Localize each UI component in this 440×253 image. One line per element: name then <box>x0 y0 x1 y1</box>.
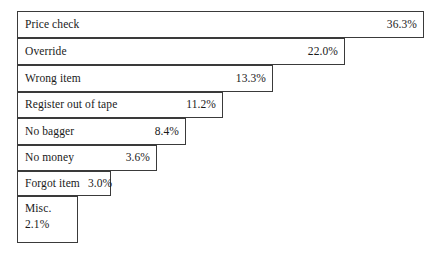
bar-row: Misc. 2.1% <box>17 196 78 243</box>
bar-value: 11.2% <box>186 98 216 111</box>
bar-label: Override <box>25 45 67 58</box>
bar-label: Misc. <box>25 202 71 215</box>
bar-value: 2.1% <box>25 218 71 231</box>
bar-label: Wrong item <box>25 72 81 85</box>
bar-value: 36.3% <box>387 18 417 31</box>
bar-value: 22.0% <box>308 45 338 58</box>
bar-label: Price check <box>25 18 79 31</box>
bar-row: No money 3.6% <box>17 145 157 171</box>
pareto-bar-chart: Price check 36.3% Override 22.0% Wrong i… <box>0 0 440 253</box>
bar-row: Price check 36.3% <box>17 11 424 38</box>
bar-row: Register out of tape 11.2% <box>17 92 223 118</box>
bar-label: Forgot item <box>25 177 80 190</box>
bar-label: No bagger <box>25 125 74 138</box>
bar-value: 3.0% <box>88 177 112 190</box>
bar-label: Register out of tape <box>25 98 117 111</box>
bar-row: No bagger 8.4% <box>17 118 186 145</box>
bar-label: No money <box>25 151 74 164</box>
bar-value: 3.6% <box>126 151 150 164</box>
bar-value: 13.3% <box>236 72 266 85</box>
bar-value: 8.4% <box>155 125 179 138</box>
bar-row: Wrong item 13.3% <box>17 65 273 92</box>
bar-row: Forgot item 3.0% <box>17 171 111 196</box>
bar-row: Override 22.0% <box>17 38 345 65</box>
